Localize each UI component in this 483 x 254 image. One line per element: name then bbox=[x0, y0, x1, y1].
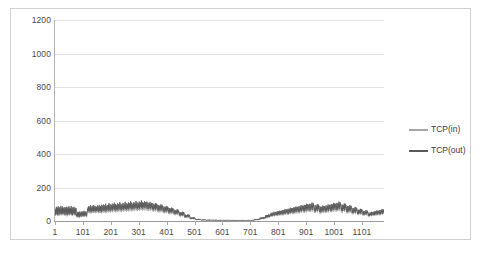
y-axis-tick-label: 1000 bbox=[11, 50, 51, 58]
x-axis-tick-mark bbox=[55, 221, 56, 225]
x-axis-tick-mark bbox=[362, 221, 363, 225]
y-axis-tick-label: 400 bbox=[11, 150, 51, 158]
y-axis-tick-label: 600 bbox=[11, 117, 51, 125]
y-axis-tick-labels: 120010008006004002000 bbox=[11, 9, 51, 239]
x-axis-tick-mark bbox=[83, 221, 84, 225]
series-plot bbox=[55, 20, 384, 221]
y-axis-tick-label: 800 bbox=[11, 83, 51, 91]
y-axis-tick-label: 200 bbox=[11, 184, 51, 192]
x-axis-tick-mark bbox=[306, 221, 307, 225]
x-axis-tick-mark bbox=[111, 221, 112, 225]
legend-label-tcp-out: TCP(out) bbox=[431, 146, 465, 155]
legend-item-tcp-out: TCP(out) bbox=[409, 140, 481, 161]
x-axis-tick-mark bbox=[278, 221, 279, 225]
plot-wrapper: 120010008006004002000 110120130140150160… bbox=[11, 9, 470, 239]
chart-legend: TCP(in) TCP(out) bbox=[409, 119, 481, 161]
x-axis-tick-mark bbox=[139, 221, 140, 225]
x-axis-tick-label: 1101 bbox=[345, 228, 379, 237]
x-axis-tick-mark bbox=[334, 221, 335, 225]
x-axis-tick-mark bbox=[222, 221, 223, 225]
y-axis-tick-label: 1200 bbox=[11, 16, 51, 24]
legend-swatch-tcp-in bbox=[409, 129, 428, 131]
legend-item-tcp-in: TCP(in) bbox=[409, 119, 481, 140]
chart-frame: 120010008006004002000 110120130140150160… bbox=[10, 8, 471, 240]
x-axis-tick-mark bbox=[195, 221, 196, 225]
x-axis-tick-mark bbox=[167, 221, 168, 225]
legend-label-tcp-in: TCP(in) bbox=[431, 125, 460, 134]
x-axis-tick-mark bbox=[250, 221, 251, 225]
legend-swatch-tcp-out bbox=[409, 150, 428, 152]
y-axis-tick-label: 0 bbox=[11, 217, 51, 225]
